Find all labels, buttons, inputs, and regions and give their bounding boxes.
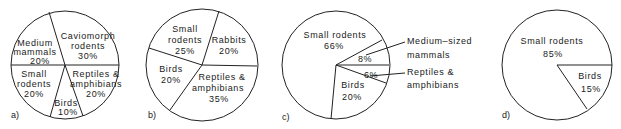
label-b-reptiles-2: amphibians — [192, 83, 244, 93]
label-c-medium-pct: 8% — [358, 54, 372, 64]
label-d-birds-2: 15% — [581, 84, 601, 94]
label-c-small-2: 66% — [324, 41, 344, 51]
label-a-medium-3: 20% — [30, 56, 50, 66]
label-b-birds-1: Birds — [159, 64, 183, 74]
label-b-small-2: rodents — [168, 35, 202, 45]
label-a-small-2: rodents — [17, 79, 51, 89]
label-b-reptiles-1: Reptiles & — [198, 72, 245, 82]
label-c-birds-1: Birds — [341, 80, 365, 90]
panel-label-b: b) — [148, 110, 156, 120]
label-a-caviomorph-3: 30% — [78, 51, 98, 61]
callout-c-medium-2: mammals — [407, 50, 450, 60]
label-a-caviomorph-1: Caviomorph — [61, 31, 116, 41]
label-b-rabbits-1: Rabbits — [212, 35, 247, 45]
panel-label-a: a) — [11, 110, 19, 120]
callout-c-medium-1: Medium–sized — [407, 36, 472, 46]
label-b-birds-2: 20% — [161, 75, 181, 85]
label-c-small-1: Small rodents — [304, 30, 367, 40]
label-a-reptiles-2: amphibians — [70, 79, 122, 89]
pie-chart-d — [502, 10, 612, 120]
label-a-small-3: 20% — [24, 89, 44, 99]
label-d-small-2: 85% — [543, 49, 563, 59]
callout-c-reptiles-1: Reptiles & — [407, 67, 454, 77]
label-a-reptiles-3: 20% — [86, 89, 106, 99]
label-c-reptiles-pct: 6% — [364, 70, 378, 80]
label-a-small-1: Small — [21, 69, 47, 79]
label-b-reptiles-3: 35% — [209, 94, 229, 104]
label-b-small-1: Small — [172, 24, 198, 34]
panel-label-c: c) — [282, 112, 290, 122]
label-b-rabbits-2: 20% — [219, 46, 239, 56]
label-b-small-3: 25% — [175, 46, 195, 56]
pie-chart-c — [282, 11, 405, 119]
label-c-birds-2: 20% — [342, 92, 362, 102]
label-a-reptiles-1: Reptiles & — [72, 69, 119, 79]
label-a-birds-2: 10% — [58, 107, 78, 117]
label-d-birds-1: Birds — [578, 71, 602, 81]
pie-charts-figure: Caviomorph rodents 30% Medium mammals 20… — [0, 0, 621, 129]
label-d-small-1: Small rodents — [521, 36, 584, 46]
panel-label-d: d) — [502, 110, 510, 120]
label-a-caviomorph-2: rodents — [71, 41, 105, 51]
callout-c-reptiles-2: amphibians — [407, 80, 459, 90]
